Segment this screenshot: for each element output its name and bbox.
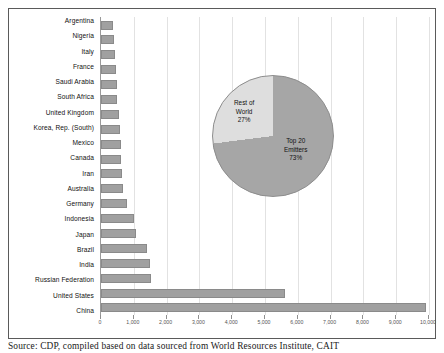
category-label: Brazil [13, 246, 97, 254]
category-label: Nigeria [13, 32, 97, 40]
bar-row [101, 303, 428, 313]
bar [101, 21, 113, 30]
bar [101, 184, 123, 193]
pie-label-line-3: 73% [284, 154, 307, 163]
category-label: United States [13, 292, 97, 300]
axis-tick-label: 7,000 [323, 319, 336, 325]
axis-tick-label: 0 [99, 319, 102, 325]
pie-label-rest-of-world: Rest of World 27% [234, 99, 254, 125]
bar-row [101, 214, 428, 224]
pie-chart: Top 20 Emitters 73% Rest of World 27% [212, 75, 342, 205]
bar [101, 95, 117, 104]
bar [101, 50, 115, 59]
bar-row [101, 20, 428, 30]
plot-wrapper: ArgentinaNigeriaItalyFranceSaudi ArabiaS… [9, 9, 435, 338]
chart-figure: ArgentinaNigeriaItalyFranceSaudi ArabiaS… [8, 8, 436, 339]
axis-tick-label: 3,000 [192, 319, 205, 325]
category-label: Russian Federation [13, 276, 97, 284]
bar [101, 274, 151, 283]
axis-tick-label: 5,000 [258, 319, 271, 325]
category-label: Saudi Arabia [13, 78, 97, 86]
pie-label-line-1: Rest of [234, 99, 254, 108]
category-label: Japan [13, 231, 97, 239]
bar [101, 140, 121, 149]
category-label: China [13, 307, 97, 315]
bar-row [101, 243, 428, 253]
bar [101, 214, 134, 223]
bar [101, 65, 116, 74]
axis-tick-label: 10,000 [420, 319, 436, 325]
bar-row [101, 288, 428, 298]
bar [101, 35, 114, 44]
axis-tick-label: 4,000 [225, 319, 238, 325]
category-label: Italy [13, 48, 97, 56]
axis-tick-label: 2,000 [159, 319, 172, 325]
category-label: Iran [13, 170, 97, 178]
category-label: Indonesia [13, 215, 97, 223]
bar [101, 303, 426, 312]
gridline [429, 17, 430, 315]
pie-label-line-1: Top 20 [284, 137, 307, 146]
category-label: Korea, Rep. (South) [13, 124, 97, 132]
category-label: India [13, 261, 97, 269]
bar [101, 229, 136, 238]
value-axis: 01,0002,0003,0004,0005,0006,0007,0008,00… [100, 315, 428, 331]
bar-row [101, 35, 428, 45]
pie-label-line-3: 27% [234, 116, 254, 125]
bar [101, 259, 150, 268]
axis-tick-label: 8,000 [356, 319, 369, 325]
bar-row [101, 50, 428, 60]
bar [101, 244, 147, 253]
bar [101, 110, 119, 119]
pie-label-line-2: Emitters [284, 146, 307, 155]
bar [101, 80, 117, 89]
category-label: Canada [13, 154, 97, 162]
figure-caption: Source: CDP, compiled based on data sour… [8, 341, 438, 353]
bar-row [101, 65, 428, 75]
axis-tick-label: 9,000 [389, 319, 402, 325]
category-label: Germany [13, 200, 97, 208]
category-label: South Africa [13, 93, 97, 101]
bar [101, 199, 127, 208]
axis-tick-label: 1,000 [126, 319, 139, 325]
bar-row [101, 228, 428, 238]
category-label: Mexico [13, 139, 97, 147]
category-label: United Kingdom [13, 109, 97, 117]
bar-row [101, 273, 428, 283]
pie-slices [212, 75, 334, 197]
bar [101, 125, 120, 134]
category-label: France [13, 63, 97, 71]
axis-tick-label: 6,000 [290, 319, 303, 325]
pie-label-line-2: World [234, 108, 254, 117]
pie-label-top-20-emitters: Top 20 Emitters 73% [284, 137, 307, 163]
bar-row [101, 258, 428, 268]
category-label: Argentina [13, 17, 97, 25]
bar [101, 289, 285, 298]
category-axis: ArgentinaNigeriaItalyFranceSaudi ArabiaS… [13, 17, 97, 315]
bar [101, 155, 121, 164]
bar [101, 169, 122, 178]
category-label: Australia [13, 185, 97, 193]
